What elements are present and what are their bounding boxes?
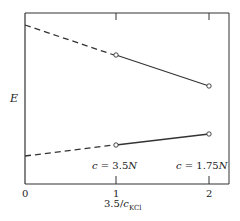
annotation-unit: N xyxy=(128,160,137,171)
lower-extrapolation-dashed xyxy=(25,145,114,156)
lower-point-1 xyxy=(114,143,118,147)
x-tick-label-2: 2 xyxy=(206,188,212,199)
chart-canvas xyxy=(0,0,240,221)
y-axis-label: E xyxy=(10,92,18,105)
x-axis-label: 3.5/cKCl xyxy=(104,198,142,212)
lower-point-2 xyxy=(207,132,211,136)
upper-line xyxy=(116,55,209,86)
annotation-c-1-75N: c = 1.75N xyxy=(176,160,227,171)
upper-point-1 xyxy=(114,53,118,57)
x-tick-label-0: 0 xyxy=(22,188,28,199)
lower-line xyxy=(116,134,209,145)
upper-extrapolation-dashed xyxy=(25,25,114,55)
x-axis-label-main: 3.5/ xyxy=(104,198,123,209)
annotation-unit: N xyxy=(219,160,228,171)
x-axis-label-sub: KCl xyxy=(129,204,142,212)
upper-point-2 xyxy=(207,84,211,88)
annotation-value: = 1.75 xyxy=(182,160,219,171)
annotation-value: = 3.5 xyxy=(98,160,129,171)
annotation-c-3-5N: c = 3.5N xyxy=(92,160,137,171)
